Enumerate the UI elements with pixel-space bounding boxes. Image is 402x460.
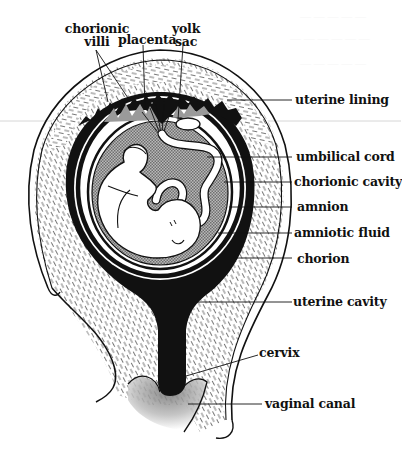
label-amnion: amnion bbox=[297, 200, 348, 213]
label-chorion: chorion bbox=[297, 252, 349, 265]
label-amniotic-fluid: amniotic fluid bbox=[294, 226, 390, 239]
label-cervix: cervix bbox=[259, 346, 299, 359]
label-vaginal-canal: vaginal canal bbox=[265, 397, 355, 410]
label-chorionic-cavity: chorionic cavity bbox=[294, 175, 402, 188]
label-yolk-sac: yolk sac bbox=[168, 22, 204, 48]
yolk-sac-shape bbox=[176, 118, 200, 130]
label-yolk-sac-line2: sac bbox=[168, 35, 204, 48]
label-uterine-cavity: uterine cavity bbox=[293, 295, 387, 308]
label-umbilical-cord: umbilical cord bbox=[296, 150, 395, 163]
label-uterine-lining: uterine lining bbox=[295, 93, 389, 106]
